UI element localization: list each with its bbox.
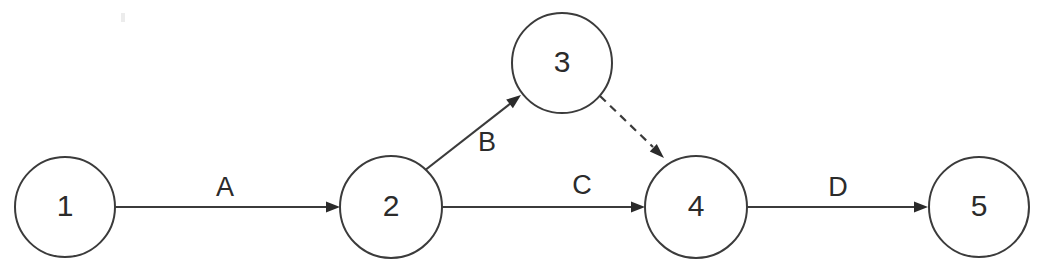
arrow-head-a	[326, 202, 340, 213]
node-1[interactable]: 1	[15, 157, 115, 257]
scan-artifact-speck	[121, 13, 125, 22]
arrow-head-d	[914, 202, 928, 213]
edge-label-a: A	[216, 172, 234, 202]
node-2[interactable]: 2	[340, 156, 442, 258]
node-4[interactable]: 4	[645, 156, 747, 258]
graph-diagram: A B C D 1 2	[0, 0, 1043, 276]
edge-group-d[interactable]: D	[747, 172, 928, 212]
arrow-head-c	[631, 202, 645, 213]
edge-line-b	[424, 103, 511, 171]
node-label-1: 1	[57, 189, 74, 222]
edge-label-b: B	[478, 127, 496, 157]
node-label-4: 4	[688, 189, 705, 222]
edge-group-b[interactable]: B	[424, 95, 521, 171]
edge-group-c[interactable]: C	[442, 170, 645, 212]
edge-group-dashed-3-to-4[interactable]	[600, 96, 664, 158]
node-5[interactable]: 5	[929, 157, 1029, 257]
edge-line-dashed	[600, 96, 653, 147]
node-label-3: 3	[554, 45, 571, 78]
node-3[interactable]: 3	[512, 13, 612, 113]
edge-label-c: C	[572, 170, 592, 200]
edge-label-d: D	[828, 172, 848, 202]
node-label-5: 5	[971, 189, 988, 222]
graph-canvas: A B C D 1 2	[0, 0, 1043, 276]
edge-group-a[interactable]: A	[115, 172, 340, 212]
node-label-2: 2	[383, 189, 400, 222]
